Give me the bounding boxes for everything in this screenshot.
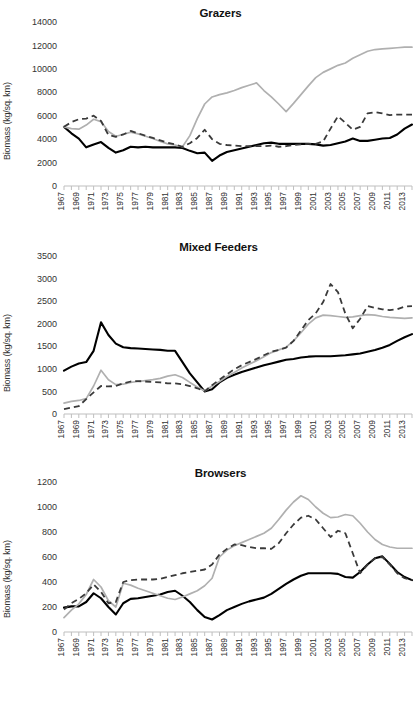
x-tick-label: 1969 xyxy=(71,420,81,439)
y-tick-label: 1500 xyxy=(37,341,57,351)
series-line-mfolozi xyxy=(64,284,412,409)
x-tick-label: 1985 xyxy=(189,638,199,657)
x-tick-label: 2003 xyxy=(323,192,333,211)
x-tick-label: 1993 xyxy=(249,192,259,211)
x-tick-label: 1967 xyxy=(56,420,66,439)
x-tick-label: 1999 xyxy=(293,638,303,657)
y-tick-label: 0 xyxy=(52,181,57,191)
x-tick-label: 1991 xyxy=(234,192,244,211)
x-tick-label: 1987 xyxy=(204,638,214,657)
x-tick-label: 1967 xyxy=(56,192,66,211)
y-tick-label: 12000 xyxy=(32,41,57,51)
y-tick-label: 2000 xyxy=(37,319,57,329)
x-tick-label: 1993 xyxy=(249,420,259,439)
x-tick-label: 1975 xyxy=(115,420,125,439)
series-line-corridor xyxy=(64,315,412,403)
y-tick-label: 2000 xyxy=(37,158,57,168)
x-tick-label: 1971 xyxy=(86,638,96,657)
x-tick-label: 1991 xyxy=(234,420,244,439)
x-tick-label: 2013 xyxy=(397,192,407,211)
x-tick-label: 1989 xyxy=(219,638,229,657)
x-tick-label: 2001 xyxy=(308,420,318,439)
x-tick-label: 1979 xyxy=(145,192,155,211)
x-tick-label: 1979 xyxy=(145,638,155,657)
series-line-corridor xyxy=(64,47,412,147)
y-tick-label: 8000 xyxy=(37,87,57,97)
x-tick-label: 1999 xyxy=(293,420,303,439)
x-tick-label: 1977 xyxy=(130,192,140,211)
chart-panel-browsers: Browsers Biomass (kg/sq. km) 02004006008… xyxy=(0,460,419,704)
y-tick-label: 400 xyxy=(42,577,57,587)
series-line-hluhluwe xyxy=(64,556,412,619)
x-tick-label: 1973 xyxy=(100,420,110,439)
x-tick-label: 1981 xyxy=(160,420,170,439)
x-tick-label: 1983 xyxy=(174,638,184,657)
x-tick-label: 1985 xyxy=(189,192,199,211)
x-tick-label: 2007 xyxy=(352,420,362,439)
x-tick-label: 1987 xyxy=(204,192,214,211)
x-tick-label: 1983 xyxy=(174,420,184,439)
x-tick-label: 1989 xyxy=(219,420,229,439)
x-tick-label: 2011 xyxy=(382,638,392,656)
biomass-trend-figure: Grazers Biomass (kg/sq. km) 020004000600… xyxy=(0,0,419,704)
series-line-hluhluwe xyxy=(64,125,412,161)
x-tick-label: 2013 xyxy=(397,420,407,439)
y-tick-label: 2500 xyxy=(37,296,57,306)
plot-area-mixed-feeders: 0500100015002000250030003500196719691971… xyxy=(0,234,419,460)
x-tick-label: 2005 xyxy=(337,420,347,439)
series-line-mfolozi xyxy=(64,516,412,610)
x-tick-label: 1997 xyxy=(278,420,288,439)
x-tick-label: 1993 xyxy=(249,638,259,657)
x-tick-label: 1967 xyxy=(56,638,66,657)
chart-panel-mixed-feeders: Mixed Feeders Biomass (kg/sq. km) 050010… xyxy=(0,234,419,460)
x-tick-label: 1985 xyxy=(189,420,199,439)
plot-area-grazers: 0200040006000800010000120001400019671969… xyxy=(0,0,419,234)
x-tick-label: 1995 xyxy=(263,192,273,211)
x-tick-label: 1997 xyxy=(278,638,288,657)
x-tick-label: 1981 xyxy=(160,638,170,657)
x-tick-label: 1973 xyxy=(100,192,110,211)
x-tick-label: 1971 xyxy=(86,192,96,211)
x-tick-label: 2009 xyxy=(367,638,377,657)
y-tick-label: 0 xyxy=(52,409,57,419)
x-tick-label: 1991 xyxy=(234,638,244,657)
y-tick-label: 6000 xyxy=(37,111,57,121)
y-tick-label: 1000 xyxy=(37,364,57,374)
x-tick-label: 2009 xyxy=(367,420,377,439)
x-tick-label: 1999 xyxy=(293,192,303,211)
x-tick-label: 2011 xyxy=(382,420,392,438)
y-tick-label: 800 xyxy=(42,527,57,537)
x-tick-label: 2001 xyxy=(308,638,318,657)
y-tick-label: 14000 xyxy=(32,17,57,27)
series-line-hluhluwe xyxy=(64,322,412,391)
x-tick-label: 2007 xyxy=(352,192,362,211)
x-tick-label: 2009 xyxy=(367,192,377,211)
plot-area-browsers: 0200400600800100012001967196919711973197… xyxy=(0,460,419,674)
y-tick-label: 200 xyxy=(42,602,57,612)
x-tick-label: 1995 xyxy=(263,420,273,439)
y-tick-label: 0 xyxy=(52,627,57,637)
y-tick-label: 4000 xyxy=(37,134,57,144)
y-tick-label: 1000 xyxy=(37,502,57,512)
x-tick-label: 2013 xyxy=(397,638,407,657)
x-tick-label: 1969 xyxy=(71,638,81,657)
x-tick-label: 1973 xyxy=(100,638,110,657)
x-tick-label: 2005 xyxy=(337,638,347,657)
x-tick-label: 2007 xyxy=(352,638,362,657)
x-tick-label: 1977 xyxy=(130,420,140,439)
x-tick-label: 2011 xyxy=(382,192,392,210)
x-tick-label: 1987 xyxy=(204,420,214,439)
x-tick-label: 1969 xyxy=(71,192,81,211)
y-tick-label: 3000 xyxy=(37,274,57,284)
x-tick-label: 1975 xyxy=(115,638,125,657)
x-tick-label: 1975 xyxy=(115,192,125,211)
y-tick-label: 10000 xyxy=(32,64,57,74)
x-tick-label: 1979 xyxy=(145,420,155,439)
x-tick-label: 1989 xyxy=(219,192,229,211)
x-tick-label: 1995 xyxy=(263,638,273,657)
x-tick-label: 1977 xyxy=(130,638,140,657)
x-tick-label: 1971 xyxy=(86,420,96,439)
y-tick-label: 1200 xyxy=(37,477,57,487)
chart-panel-grazers: Grazers Biomass (kg/sq. km) 020004000600… xyxy=(0,0,419,234)
x-tick-label: 1997 xyxy=(278,192,288,211)
